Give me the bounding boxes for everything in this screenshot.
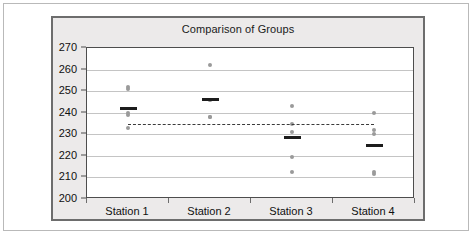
x-axis-tick-mark <box>414 198 415 203</box>
group-mean-bar <box>120 107 137 110</box>
y-axis-tick-label: 270 <box>49 41 77 53</box>
data-point <box>208 63 212 67</box>
x-axis-category-label: Station 3 <box>269 205 312 217</box>
figure-frame: Comparison of Groups 2002102202302402502… <box>3 3 469 231</box>
x-axis-tick-mark <box>86 198 87 203</box>
y-axis-tick-label: 220 <box>49 149 77 161</box>
group-mean-bar <box>284 136 301 139</box>
x-axis-tick-mark <box>250 198 251 203</box>
data-point <box>372 111 376 115</box>
y-axis-tick-label: 240 <box>49 106 77 118</box>
x-axis-tick-mark <box>332 198 333 203</box>
x-axis-tick-mark <box>168 198 169 203</box>
plot-area <box>86 47 414 198</box>
data-point <box>372 132 376 136</box>
gridline <box>87 134 413 135</box>
data-point <box>126 126 130 130</box>
data-point <box>126 113 130 117</box>
x-axis-category-label: Station 4 <box>351 205 394 217</box>
group-mean-bar <box>202 98 219 101</box>
y-axis-tick-label: 210 <box>49 170 77 182</box>
data-point <box>208 115 212 119</box>
x-axis-category-label: Station 1 <box>105 205 148 217</box>
group-mean-bar <box>366 144 383 147</box>
y-axis-tick-label: 200 <box>49 192 77 204</box>
data-point <box>372 172 376 176</box>
y-axis-tick-label: 250 <box>49 84 77 96</box>
x-axis-category-label: Station 2 <box>187 205 230 217</box>
gridline <box>87 91 413 92</box>
data-point <box>290 155 294 159</box>
grand-mean-reference-line <box>128 124 374 125</box>
chart-panel: Comparison of Groups 2002102202302402502… <box>51 16 425 221</box>
data-point <box>126 87 130 91</box>
gridline <box>87 70 413 71</box>
y-axis-tick-label: 230 <box>49 127 77 139</box>
y-axis-tick-label: 260 <box>49 63 77 75</box>
gridline <box>87 156 413 157</box>
gridline <box>87 113 413 114</box>
chart-title: Comparison of Groups <box>53 23 423 35</box>
gridline <box>87 177 413 178</box>
data-point <box>290 104 294 108</box>
data-point <box>290 170 294 174</box>
